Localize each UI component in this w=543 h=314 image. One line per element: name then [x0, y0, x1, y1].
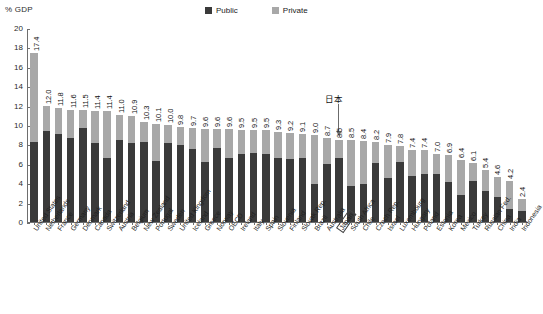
- bar-segment-public[interactable]: [30, 142, 38, 223]
- bar-slot[interactable]: 6.9: [445, 29, 453, 222]
- bar-segment-private[interactable]: [323, 138, 331, 164]
- stacked-bar[interactable]: 7.8: [396, 146, 404, 222]
- bar-segment-public[interactable]: [323, 164, 331, 222]
- bar-segment-private[interactable]: [518, 199, 526, 212]
- stacked-bar[interactable]: 9.5: [238, 130, 246, 222]
- stacked-bar[interactable]: 9.6: [213, 129, 221, 222]
- bar-slot[interactable]: 9.2: [286, 29, 294, 222]
- bar-segment-private[interactable]: [274, 132, 282, 158]
- bar-segment-private[interactable]: [408, 150, 416, 176]
- bar-segment-private[interactable]: [225, 129, 233, 158]
- bar-segment-private[interactable]: [152, 124, 160, 161]
- bar-slot[interactable]: 11.0: [116, 29, 124, 222]
- bar-segment-public[interactable]: [396, 162, 404, 222]
- bar-segment-private[interactable]: [421, 150, 429, 174]
- bar-segment-public[interactable]: [262, 154, 270, 222]
- bar-segment-private[interactable]: [347, 140, 355, 187]
- bar-slot[interactable]: 7.4: [421, 29, 429, 222]
- bar-segment-private[interactable]: [103, 111, 111, 158]
- bar-slot[interactable]: 11.4: [91, 29, 99, 222]
- bar-slot[interactable]: 7.0: [433, 29, 441, 222]
- bar-slot[interactable]: 9.7: [189, 29, 197, 222]
- bar-segment-private[interactable]: [128, 116, 136, 143]
- bar-slot[interactable]: 8.2: [372, 29, 380, 222]
- bar-segment-private[interactable]: [262, 130, 270, 154]
- bar-segment-private[interactable]: [213, 129, 221, 148]
- bar-slot[interactable]: 8.4: [360, 29, 368, 222]
- stacked-bar[interactable]: 9.6: [225, 129, 233, 222]
- bar-segment-private[interactable]: [396, 146, 404, 162]
- stacked-bar[interactable]: 9.3: [274, 132, 282, 222]
- stacked-bar[interactable]: 9.5: [250, 130, 258, 222]
- bar-segment-private[interactable]: [250, 130, 258, 153]
- bar-slot[interactable]: 10.0: [164, 29, 172, 222]
- bar-segment-private[interactable]: [140, 122, 148, 142]
- bar-segment-private[interactable]: [299, 134, 307, 158]
- bar-segment-public[interactable]: [274, 158, 282, 222]
- bar-segment-private[interactable]: [79, 110, 87, 127]
- bar-segment-private[interactable]: [286, 133, 294, 159]
- stacked-bar[interactable]: 10.9: [128, 116, 136, 222]
- bar-slot[interactable]: 10.1: [152, 29, 160, 222]
- bar-segment-private[interactable]: [189, 128, 197, 149]
- bar-slot[interactable]: 7.4: [408, 29, 416, 222]
- bar-slot[interactable]: 7.8: [396, 29, 404, 222]
- bar-slot[interactable]: 11.5: [79, 29, 87, 222]
- bar-segment-private[interactable]: [55, 108, 63, 134]
- bar-slot[interactable]: 10.9: [128, 29, 136, 222]
- bar-slot[interactable]: 9.5: [262, 29, 270, 222]
- bar-segment-private[interactable]: [494, 177, 502, 196]
- bar-slot[interactable]: 11.8: [55, 29, 63, 222]
- bar-slot[interactable]: 5.4: [482, 29, 490, 222]
- bar-segment-private[interactable]: [311, 135, 319, 184]
- bar-segment-private[interactable]: [201, 129, 209, 162]
- stacked-bar[interactable]: 9.5: [262, 130, 270, 222]
- bar-segment-private[interactable]: [372, 142, 380, 162]
- bar-slot[interactable]: 2.4: [518, 29, 526, 222]
- bar-slot[interactable]: 11.4: [103, 29, 111, 222]
- bar-slot[interactable]: 9.6: [213, 29, 221, 222]
- bar-segment-private[interactable]: [469, 163, 477, 181]
- bar-segment-private[interactable]: [457, 160, 465, 195]
- bar-segment-private[interactable]: [238, 130, 246, 154]
- bar-segment-private[interactable]: [445, 155, 453, 182]
- bar-slot[interactable]: 9.0: [311, 29, 319, 222]
- bar-slot[interactable]: 12.0: [43, 29, 51, 222]
- bar-slot[interactable]: 6.1: [469, 29, 477, 222]
- stacked-bar[interactable]: 8.7: [323, 138, 331, 222]
- bar-segment-private[interactable]: [43, 106, 51, 131]
- stacked-bar[interactable]: 17.4: [30, 53, 38, 222]
- stacked-bar[interactable]: 8.2: [372, 142, 380, 222]
- bar-segment-public[interactable]: [372, 163, 380, 222]
- bar-slot[interactable]: 8.7: [323, 29, 331, 222]
- bar-segment-private[interactable]: [335, 140, 343, 158]
- bar-slot[interactable]: 8.5: [335, 29, 343, 222]
- bar-segment-private[interactable]: [116, 115, 124, 139]
- bar-slot[interactable]: 9.1: [299, 29, 307, 222]
- bar-slot[interactable]: 4.2: [506, 29, 514, 222]
- bar-slot[interactable]: 9.3: [274, 29, 282, 222]
- bar-segment-private[interactable]: [91, 111, 99, 143]
- stacked-bar[interactable]: 11.4: [103, 111, 111, 222]
- bar-segment-private[interactable]: [164, 125, 172, 143]
- bar-slot[interactable]: 9.6: [225, 29, 233, 222]
- stacked-bar[interactable]: 9.6: [201, 129, 209, 222]
- bar-segment-private[interactable]: [30, 53, 38, 141]
- bar-slot[interactable]: 8.5: [347, 29, 355, 222]
- bar-segment-private[interactable]: [360, 141, 368, 185]
- stacked-bar[interactable]: 9.1: [299, 134, 307, 222]
- bar-segment-private[interactable]: [482, 170, 490, 191]
- bar-slot[interactable]: 17.4: [30, 29, 38, 222]
- bar-slot[interactable]: 11.6: [67, 29, 75, 222]
- bar-slot[interactable]: 4.6: [494, 29, 502, 222]
- bar-slot[interactable]: 9.8: [177, 29, 185, 222]
- bar-segment-private[interactable]: [384, 145, 392, 178]
- bar-slot[interactable]: 10.3: [140, 29, 148, 222]
- bar-segment-private[interactable]: [433, 154, 441, 173]
- bar-slot[interactable]: 6.4: [457, 29, 465, 222]
- bar-slot[interactable]: 9.5: [250, 29, 258, 222]
- bar-slot[interactable]: 9.5: [238, 29, 246, 222]
- bar-segment-private[interactable]: [177, 127, 185, 145]
- bar-segment-private[interactable]: [67, 110, 75, 138]
- bar-slot[interactable]: 7.9: [384, 29, 392, 222]
